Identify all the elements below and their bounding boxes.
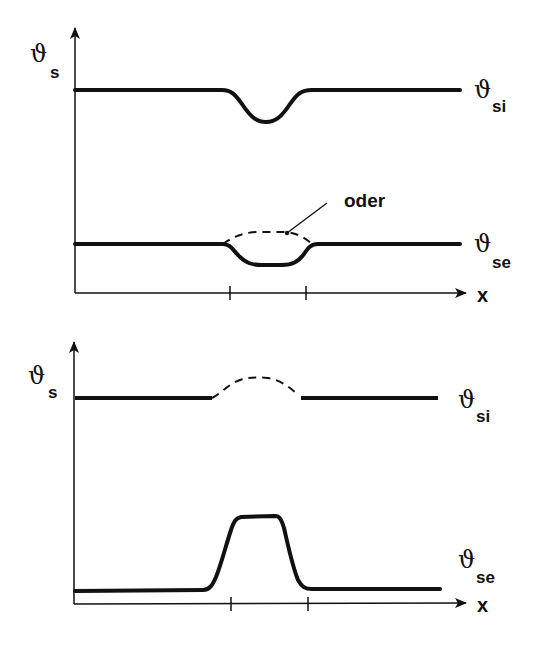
top-theta-si-label: ϑ [474,76,491,104]
top-theta-si-subscript: si [492,97,506,116]
top-y-axis-subscript: s [50,63,59,82]
bottom-theta-se-label: ϑ [458,546,475,574]
top-theta-se-curve [75,244,460,265]
bottom-theta-se-subscript: se [476,568,495,587]
top-theta-si-curve [75,90,460,122]
top-x-axis-label: x [477,284,488,306]
bottom-y-axis-label: ϑ [28,362,45,390]
bottom-theta-se-curve [75,516,440,591]
bottom-y-axis-subscript: s [48,383,57,402]
bottom-theta-si-label: ϑ [458,386,475,414]
oder-leader-line [287,203,327,233]
top-theta-se-label: ϑ [474,230,491,258]
oder-leader-dot [285,231,289,235]
bottom-x-axis [74,603,466,604]
diagram-canvas: ϑ s x ϑ si ϑ se oder ϑ s x ϑ s [0,0,548,650]
oder-annotation: oder [344,190,386,211]
top-theta-se-alternative-dashed [223,232,312,244]
bottom-theta-si-dashed-bump [212,377,296,398]
top-diagram: ϑ s x ϑ si ϑ se oder [30,28,511,306]
top-theta-se-subscript: se [492,253,511,272]
bottom-theta-si-subscript: si [476,407,490,426]
bottom-x-axis-label: x [477,594,488,616]
top-y-axis-label: ϑ [30,40,47,68]
bottom-diagram: ϑ s x ϑ si ϑ se [28,342,495,616]
